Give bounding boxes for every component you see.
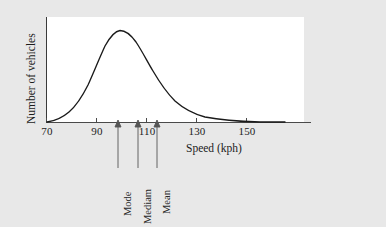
x-tick-label-3: 130 — [182, 125, 212, 137]
x-tick-label-1: 90 — [82, 125, 112, 137]
x-axis-title: Speed (kph) — [186, 142, 242, 154]
x-tick-label-4: 150 — [232, 125, 262, 137]
annotation-label-median: Mediam — [142, 189, 153, 224]
annotation-label-mode: Mode — [122, 192, 133, 217]
plot-area — [46, 17, 304, 122]
y-axis-title: Number of vehicles — [25, 16, 39, 124]
x-axis-line — [46, 122, 311, 123]
x-tick-label-2: 110 — [132, 125, 162, 137]
chart-figure: 70 90 110 130 150 Speed (kph) Number of … — [0, 0, 386, 227]
annotation-label-mean: Mean — [161, 190, 172, 214]
arrow-mode — [115, 120, 121, 168]
y-axis-line — [46, 17, 47, 123]
x-tick-label-0: 70 — [32, 125, 62, 137]
